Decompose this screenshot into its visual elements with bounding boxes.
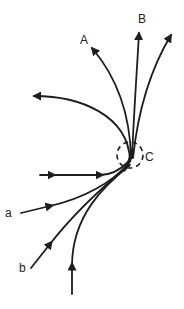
incoming-line-horizontal bbox=[40, 162, 128, 175]
label-b: b bbox=[19, 262, 26, 274]
incoming-line-a bbox=[21, 164, 128, 213]
convergence-bundle bbox=[124, 150, 132, 170]
outgoing-line-left bbox=[34, 96, 130, 160]
incoming-line-b bbox=[31, 166, 128, 268]
label-B: B bbox=[138, 13, 146, 25]
outgoing-line-A bbox=[92, 48, 131, 158]
label-A: A bbox=[80, 34, 88, 46]
incoming-line-bottom bbox=[72, 165, 130, 294]
label-a: a bbox=[5, 207, 12, 219]
flow-diagram bbox=[0, 0, 184, 309]
label-C: C bbox=[145, 151, 154, 163]
